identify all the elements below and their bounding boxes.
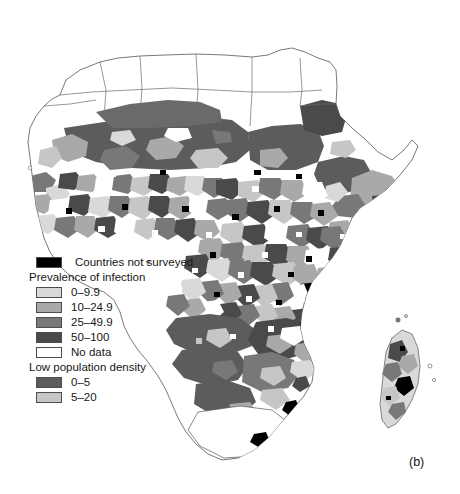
legend-label-prevalence-1: 10–24.9 xyxy=(71,302,113,314)
legend-item-prevalence-0: 0–9.9 xyxy=(29,285,219,300)
legend-swatch-popdensity-0 xyxy=(36,377,62,388)
legend-item-prevalence-3: 50–100 xyxy=(29,330,219,345)
africa-choropleth-map xyxy=(0,0,460,494)
legend-swatch-prevalence-2 xyxy=(36,317,62,328)
legend-label-not-surveyed: Countries not surveyed xyxy=(75,257,193,269)
legend-item-prevalence-1: 10–24.9 xyxy=(29,300,219,315)
legend-label-prevalence-2: 25–49.9 xyxy=(71,317,113,329)
legend-label-prevalence-4: No data xyxy=(71,347,111,359)
legend-section-prevalence: Prevalence of infection xyxy=(29,270,219,285)
legend-swatch-prevalence-1 xyxy=(36,302,62,313)
legend-label-prevalence-0: 0–9.9 xyxy=(71,287,100,299)
legend-swatch-not-surveyed xyxy=(36,257,62,268)
legend-swatch-popdensity-1 xyxy=(36,392,62,403)
legend-item-not-surveyed: Countries not surveyed xyxy=(29,255,219,270)
island-madagascar xyxy=(380,330,420,428)
legend-swatch-prevalence-3 xyxy=(36,332,62,343)
legend-title-prevalence: Prevalence of infection xyxy=(29,272,145,284)
legend-label-prevalence-3: 50–100 xyxy=(71,332,109,344)
legend-label-popdensity-1: 5–20 xyxy=(71,392,97,404)
map-legend: Countries not surveyed Prevalence of inf… xyxy=(29,255,219,405)
legend-item-prevalence-4: No data xyxy=(29,345,219,360)
legend-item-popdensity-1: 5–20 xyxy=(29,390,219,405)
legend-section-population-density: Low population density xyxy=(29,360,219,375)
legend-label-popdensity-0: 0–5 xyxy=(71,377,90,389)
legend-swatch-prevalence-4 xyxy=(36,347,62,358)
figure-panel: Countries not surveyed Prevalence of inf… xyxy=(0,0,460,494)
panel-label: (b) xyxy=(409,455,424,469)
legend-item-prevalence-2: 25–49.9 xyxy=(29,315,219,330)
legend-item-popdensity-0: 0–5 xyxy=(29,375,219,390)
map-svg xyxy=(0,0,460,494)
legend-title-population-density: Low population density xyxy=(29,362,146,374)
legend-swatch-prevalence-0 xyxy=(36,287,62,298)
